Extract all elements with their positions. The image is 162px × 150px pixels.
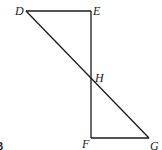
point-label-h: H [94,71,105,85]
segment-dg [26,11,149,138]
figure-label: B [0,141,3,150]
point-label-e: E [92,4,101,18]
point-label-f: F [81,137,90,150]
geometry-diagram: D E H F G B [0,0,162,150]
point-label-d: D [14,4,24,18]
point-label-g: G [150,139,159,150]
